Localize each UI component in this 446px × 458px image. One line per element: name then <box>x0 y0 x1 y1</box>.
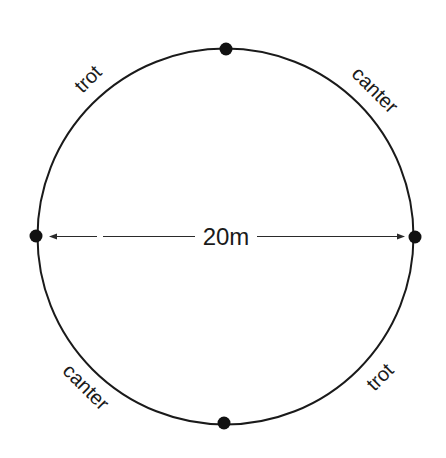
marker-dot-bottom <box>218 417 231 430</box>
marker-dot-left <box>30 230 43 243</box>
gait-label-bottom-right: trot <box>362 358 398 394</box>
gait-label-top-right: canter <box>348 62 403 117</box>
marker-dot-right <box>409 231 422 244</box>
gait-label-bottom-left: canter <box>59 359 114 414</box>
marker-dot-top <box>220 43 233 56</box>
arrowhead-left-icon <box>49 234 57 240</box>
arrowhead-right-icon <box>397 234 405 240</box>
diameter-label: 20m <box>203 223 250 250</box>
gait-label-top-left: trot <box>70 60 106 96</box>
circle-diagram: 20m trot canter canter trot <box>0 0 446 458</box>
